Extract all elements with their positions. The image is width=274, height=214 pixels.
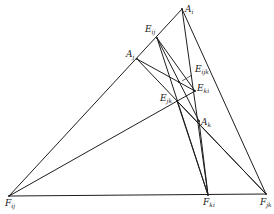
point-A_i <box>181 8 183 10</box>
point-E_ki <box>194 90 196 92</box>
label-E_ij: Eij <box>144 24 155 36</box>
point-E_ij <box>156 37 158 39</box>
segment-A_j-E_ki <box>137 59 195 91</box>
segment-F_ij-E_ki <box>9 91 195 196</box>
segment-F_ij-F_jk <box>9 194 266 196</box>
label-F_jk: Fjk <box>259 197 272 209</box>
label-A_k: Ak <box>200 117 212 128</box>
points <box>8 8 267 197</box>
point-A_k <box>198 120 200 122</box>
label-E_ki: Eki <box>196 83 209 94</box>
label-F_ij: Fij <box>4 198 15 210</box>
point-F_ki <box>207 194 209 196</box>
label-A_i: Ai <box>184 4 194 15</box>
point-F_jk <box>265 193 267 195</box>
point-E_ijk <box>178 81 180 83</box>
point-F_ij <box>8 195 10 197</box>
line-segments <box>9 9 266 196</box>
geometry-diagram: AiEijAjEijkEkiEjkAkFijFkiFjk <box>0 0 274 214</box>
segment-E_jk-F_ki <box>177 101 208 195</box>
label-E_jk: Ejk <box>159 93 172 105</box>
segment-E_jk-F_jk <box>177 101 266 194</box>
point-A_j <box>136 58 138 60</box>
point-labels: AiEijAjEijkEkiEjkAkFijFkiFjk <box>4 4 272 210</box>
label-A_j: Aj <box>125 49 135 61</box>
segment-F_ij-A_i <box>9 9 182 196</box>
label-E_ijk: Eijk <box>194 64 209 76</box>
point-E_jk <box>176 100 178 102</box>
label-F_ki: Fki <box>202 197 215 208</box>
